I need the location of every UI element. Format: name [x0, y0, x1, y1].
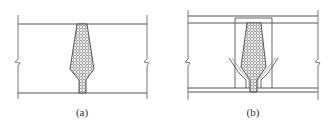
panel-a-label: (a): [76, 106, 88, 118]
panel-b: [185, 10, 320, 100]
joint-diagram: [0, 0, 331, 128]
panel-a: [15, 15, 149, 99]
left-boundary-line: [15, 15, 20, 99]
right-boundary-line: [144, 15, 149, 99]
hatched-fill-section: [70, 24, 94, 93]
hatched-fill-section: [241, 23, 266, 92]
panel-b-label: (b): [247, 106, 260, 118]
